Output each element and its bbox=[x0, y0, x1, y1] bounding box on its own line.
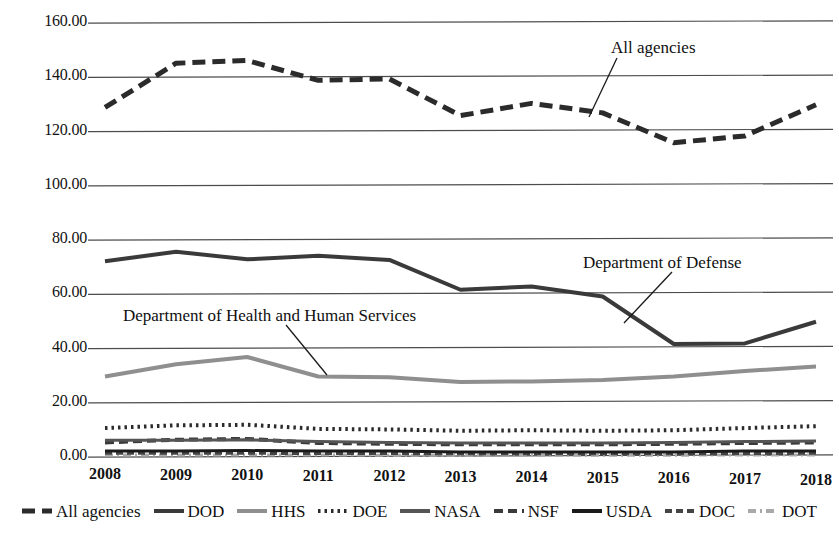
legend-swatch-icon bbox=[494, 505, 524, 517]
legend-item-dot[interactable]: DOT bbox=[748, 503, 817, 520]
x-axis-tick-label: 2011 bbox=[283, 467, 353, 485]
y-axis-tick-label: 40.00 bbox=[13, 338, 87, 356]
x-axis-tick-label: 2018 bbox=[781, 471, 839, 489]
y-axis-tick-label: 120.00 bbox=[13, 121, 87, 139]
x-axis-tick-label: 2014 bbox=[497, 468, 567, 486]
x-axis-tick-label: 2015 bbox=[568, 469, 638, 487]
legend-label: USDA bbox=[606, 503, 652, 520]
gridline bbox=[88, 238, 833, 240]
x-axis-tick-label: 2010 bbox=[212, 466, 282, 484]
legend-item-nasa[interactable]: NASA bbox=[400, 503, 480, 520]
x-axis-tick-label: 2009 bbox=[141, 466, 211, 484]
legend-swatch-icon bbox=[572, 505, 602, 517]
legend-swatch-icon bbox=[237, 505, 267, 517]
legend-label: NASA bbox=[434, 503, 480, 520]
y-axis-tick-label: 60.00 bbox=[13, 283, 87, 301]
gridline bbox=[88, 292, 833, 294]
legend-item-nsf[interactable]: NSF bbox=[494, 503, 559, 520]
x-axis-tick-label: 2013 bbox=[426, 468, 496, 486]
legend-item-all-agencies[interactable]: All agencies bbox=[22, 503, 141, 520]
leader-line-all-agencies bbox=[589, 58, 617, 117]
gridlines-group bbox=[88, 21, 833, 457]
legend-label: DOC bbox=[699, 503, 735, 520]
legend-label: NSF bbox=[528, 503, 559, 520]
gridline bbox=[88, 75, 833, 77]
x-axis-tick-label: 2008 bbox=[70, 465, 140, 483]
legend-item-dod[interactable]: DOD bbox=[154, 503, 225, 520]
series-line-usda bbox=[105, 451, 816, 452]
y-axis-tick-label: 140.00 bbox=[13, 66, 87, 84]
y-axis-tick-label: 20.00 bbox=[13, 392, 87, 410]
gridline bbox=[88, 401, 833, 403]
legend-label: DOE bbox=[352, 503, 387, 520]
x-axis-tick-label: 2012 bbox=[354, 467, 424, 485]
legend-swatch-icon bbox=[318, 505, 348, 517]
chart-container: 160.00140.00120.00100.0080.0060.0040.002… bbox=[0, 0, 839, 539]
legend-item-usda[interactable]: USDA bbox=[572, 503, 652, 520]
gridline bbox=[88, 346, 833, 348]
gridline bbox=[88, 129, 833, 131]
legend-swatch-icon bbox=[22, 505, 52, 517]
leader-line-dod bbox=[624, 272, 672, 323]
x-axis-tick-label: 2016 bbox=[639, 469, 709, 487]
series-line-doe bbox=[105, 425, 816, 431]
legend-item-hhs[interactable]: HHS bbox=[237, 503, 305, 520]
annotation-department-of-defense: Department of Defense bbox=[583, 253, 742, 273]
legend-swatch-icon bbox=[400, 505, 430, 517]
y-axis-tick-label: 100.00 bbox=[13, 175, 87, 193]
y-axis-tick-label: 0.00 bbox=[13, 446, 87, 464]
y-axis-tick-label: 80.00 bbox=[13, 229, 87, 247]
gridline bbox=[88, 184, 833, 186]
legend-swatch-icon bbox=[154, 505, 184, 517]
legend-item-doe[interactable]: DOE bbox=[318, 503, 387, 520]
y-axis-tick-label: 160.00 bbox=[13, 12, 87, 30]
legend-swatch-icon bbox=[748, 505, 778, 517]
chart-legend: All agenciesDODHHSDOENASANSFUSDADOCDOT bbox=[0, 494, 839, 528]
x-axis-tick-label: 2017 bbox=[710, 470, 780, 488]
legend-label: HHS bbox=[271, 503, 305, 520]
annotation-department-of-health-and-human-services: Department of Health and Human Services bbox=[123, 306, 416, 326]
series-line-hhs bbox=[105, 357, 816, 382]
annotation-all-agencies: All agencies bbox=[611, 38, 696, 58]
annotation-leader-lines bbox=[286, 58, 672, 375]
legend-swatch-icon bbox=[665, 505, 695, 517]
legend-label: All agencies bbox=[56, 503, 141, 520]
gridline bbox=[88, 21, 833, 23]
series-line-nasa bbox=[105, 440, 816, 443]
legend-label: DOD bbox=[188, 503, 225, 520]
legend-label: DOT bbox=[782, 503, 817, 520]
legend-item-doc[interactable]: DOC bbox=[665, 503, 735, 520]
